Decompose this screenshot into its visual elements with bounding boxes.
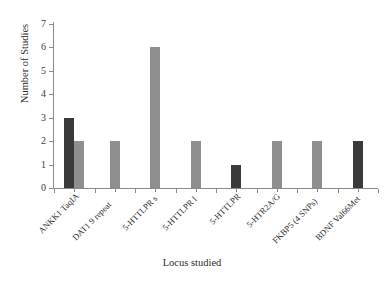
- x-axis-tick-mark: [54, 189, 55, 193]
- x-axis-category-label: 5-HTR2A/G: [245, 193, 282, 230]
- x-axis-category-label: DAT1 9 repeat: [71, 200, 113, 242]
- x-axis-tick-mark: [338, 189, 339, 193]
- y-axis-tick-label: 6: [41, 42, 46, 52]
- y-axis-tick-label: 3: [41, 113, 46, 123]
- y-axis-tick-mark: [49, 47, 53, 48]
- x-axis-tick-mark: [176, 189, 177, 193]
- bar: [191, 141, 201, 188]
- bar: [272, 141, 282, 188]
- y-axis-tick-label: 0: [41, 183, 46, 193]
- x-axis-tick-mark: [196, 189, 197, 192]
- x-axis-tick-mark: [115, 189, 116, 192]
- x-axis-category-label: FKBP5 (4 SNPs): [271, 197, 319, 245]
- y-axis-tick-label: 1: [41, 160, 46, 170]
- x-axis-tick-mark: [317, 189, 318, 192]
- plot-area: [54, 24, 378, 188]
- y-axis-tick-mark: [49, 165, 53, 166]
- y-axis-tick-mark: [49, 71, 53, 72]
- x-axis-tick-mark: [216, 189, 217, 193]
- x-axis-tick-mark: [358, 189, 359, 192]
- bar: [74, 141, 84, 188]
- bar: [150, 47, 160, 188]
- x-axis-category-label: 5-HTTLPR s: [121, 194, 159, 232]
- y-axis-tick-mark: [49, 188, 53, 189]
- figure-bar-chart: Number of Studies 01234567 ANKK1 TaqIADA…: [0, 0, 384, 287]
- x-axis-tick-mark: [277, 189, 278, 192]
- bar: [312, 141, 322, 188]
- x-axis-category-label: ANKK1 TaqIA: [37, 192, 81, 236]
- y-axis-tick-mark: [49, 24, 53, 25]
- y-axis-title: Number of Studies: [19, 0, 30, 134]
- bar: [353, 141, 363, 188]
- x-axis-tick-mark: [135, 189, 136, 193]
- x-axis-tick-mark: [95, 189, 96, 193]
- bar: [231, 165, 241, 188]
- x-axis-category-label: 5-HTTLPR: [208, 192, 242, 226]
- y-axis-tick-mark: [49, 94, 53, 95]
- x-axis-tick-mark: [155, 189, 156, 192]
- x-axis-tick-mark: [257, 189, 258, 193]
- x-axis-category-label: 5-HTTLPR l: [161, 195, 199, 233]
- y-axis-tick-label: 4: [41, 89, 46, 99]
- x-axis-tick-mark: [297, 189, 298, 193]
- y-axis-tick-label: 2: [41, 136, 46, 146]
- bar: [110, 141, 120, 188]
- x-axis-tick-mark: [378, 189, 379, 193]
- y-axis-tick-label: 7: [41, 19, 46, 29]
- bar: [64, 118, 74, 188]
- x-axis-title: Locus studied: [0, 257, 384, 268]
- y-axis-tick-label: 5: [41, 66, 46, 76]
- y-axis-tick-mark: [49, 141, 53, 142]
- y-axis-tick-mark: [49, 118, 53, 119]
- x-axis-category-label: BDNF Val66Met: [314, 194, 362, 242]
